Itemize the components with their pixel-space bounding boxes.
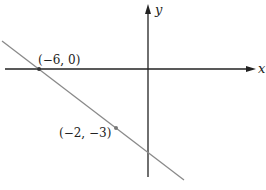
point-label-neg2-neg3: (−2, −3) [59,126,111,140]
x-axis-label: x [258,61,266,76]
y-axis-arrow-icon [145,4,151,14]
coordinate-plane: x y (−6, 0) (−2, −3) [0,0,266,190]
point-neg6-0 [37,67,41,71]
y-axis-label: y [154,2,163,17]
point-neg2-neg3 [114,126,118,130]
point-label-neg6-0: (−6, 0) [38,53,80,67]
graph-line [2,41,184,180]
x-axis-arrow-icon [246,66,256,72]
